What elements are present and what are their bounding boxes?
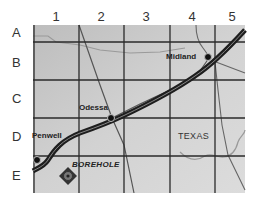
city-label-penwell: Penwell [32, 131, 62, 140]
borehole-label: BOREHOLE [72, 160, 120, 169]
midland-city-dot [205, 54, 212, 61]
city-label-odessa: Odessa [79, 103, 108, 112]
city-label-midland: Midland [166, 52, 196, 61]
penwell-city-dot [34, 157, 41, 164]
map-canvas [0, 0, 261, 210]
odessa-city-dot [108, 115, 115, 122]
state-label-texas: TEXAS [178, 131, 209, 141]
